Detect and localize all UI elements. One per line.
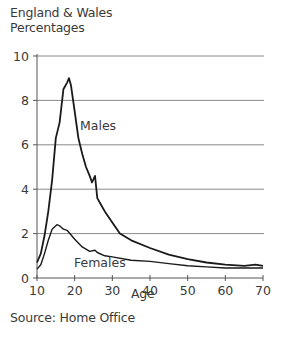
ytick-label: 6	[21, 137, 29, 152]
xtick-label: 60	[217, 283, 233, 298]
ytick-label: 2	[21, 226, 29, 241]
series-line-females	[37, 225, 263, 269]
ytick-label: 0	[21, 271, 29, 286]
series-label-males: Males	[80, 118, 116, 133]
source-note: Source: Home Office	[10, 310, 135, 325]
ytick-label: 10	[13, 49, 29, 64]
xtick-label: 20	[67, 283, 83, 298]
ytick-label: 8	[21, 93, 29, 108]
series-lines	[37, 78, 263, 269]
series-line-males	[37, 78, 263, 266]
series-label-females: Females	[74, 255, 126, 270]
x-axis-title: Age	[131, 286, 155, 301]
xtick-label: 30	[104, 283, 120, 298]
xtick-label: 70	[255, 283, 271, 298]
xtick-label: 10	[29, 283, 45, 298]
ytick-label: 4	[21, 182, 29, 197]
xtick-label: 50	[180, 283, 196, 298]
